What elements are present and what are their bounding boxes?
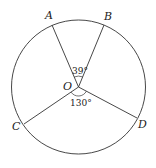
radius-OA: [52, 25, 79, 87]
label-D: D: [137, 118, 147, 131]
label-A: A: [44, 9, 53, 22]
label-C: C: [12, 120, 21, 133]
label-O: O: [63, 80, 72, 93]
angle-arc-COD: [71, 91, 86, 96]
radius-OB: [79, 25, 105, 87]
circle-diagram: A B C D O 39° 130°: [0, 0, 156, 168]
angle-arc-AOB: [74, 76, 83, 77]
angle-label-COD: 130°: [70, 98, 92, 108]
angle-label-AOB: 39°: [72, 66, 88, 76]
label-B: B: [103, 10, 112, 23]
